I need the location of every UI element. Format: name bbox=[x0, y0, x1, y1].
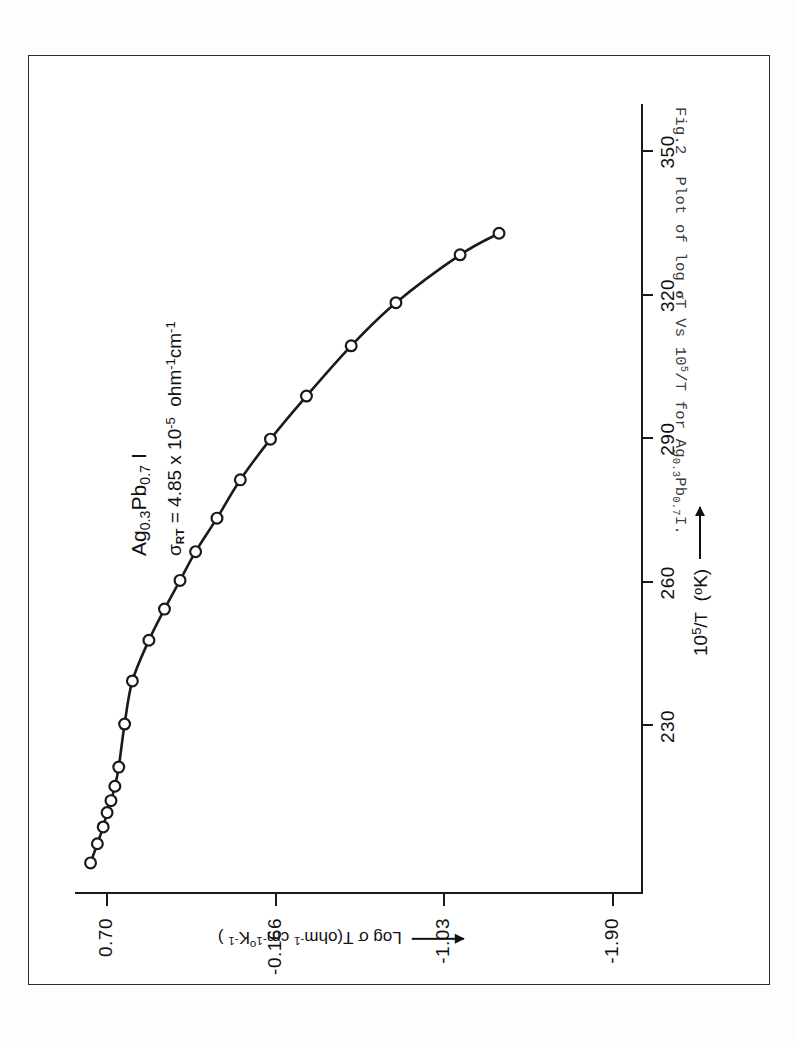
data-point-marker bbox=[190, 546, 201, 557]
data-point-marker bbox=[113, 762, 124, 773]
data-point-marker bbox=[159, 604, 170, 615]
data-point-marker bbox=[144, 635, 155, 646]
data-point-marker bbox=[212, 513, 223, 524]
data-point-marker bbox=[119, 719, 130, 730]
data-point-marker bbox=[301, 391, 312, 402]
data-point-marker bbox=[92, 838, 103, 849]
plot-area: 230260290320350 0.70-0.166-1.03-1.90 Ag0… bbox=[29, 56, 771, 986]
figure-caption-wrap: Fig.2Plot of log σT Vs 105/T for Ag0.3Pb… bbox=[690, 55, 796, 145]
data-point-marker bbox=[391, 297, 402, 308]
plot-inner: 230260290320350 0.70-0.166-1.03-1.90 Ag0… bbox=[29, 56, 771, 986]
sigma-subscript: RT bbox=[173, 529, 186, 545]
data-point-marker bbox=[175, 575, 186, 586]
sample-annotation: Ag0.3Pb0.7 I σRT = 4.85 x 10-5 ohm-1cm-1 bbox=[121, 321, 191, 556]
data-point-marker bbox=[109, 781, 120, 792]
data-point-marker bbox=[455, 249, 466, 260]
annotation-ag-sub: 0.3 bbox=[137, 510, 153, 530]
sigma-value: 4.85 x 10 bbox=[164, 429, 185, 507]
data-point-marker bbox=[98, 822, 109, 833]
x-axis-title: 105/T (oK) bbox=[689, 507, 712, 656]
sigma-units: ohm bbox=[164, 370, 185, 407]
figure-caption-text: Plot of log σT Vs 105/T for Ag0.3Pb0.7I. bbox=[671, 177, 689, 535]
sigma-exponent: -5 bbox=[163, 417, 178, 428]
sigma-symbol: σ bbox=[164, 544, 185, 556]
annotation-ag: Ag bbox=[127, 530, 150, 556]
data-point-marker bbox=[127, 676, 138, 687]
rotated-plot-stage: 230260290320350 0.70-0.166-1.03-1.90 Ag0… bbox=[29, 56, 771, 986]
figure-frame: 230260290320350 0.70-0.166-1.03-1.90 Ag0… bbox=[28, 55, 770, 985]
y-axis-title-text: Log σ T(ohm-1 cm-1oK-1 ) bbox=[218, 927, 402, 951]
y-axis-title: Log σ T(ohm-1 cm-1oK-1 ) bbox=[126, 927, 556, 951]
data-point-marker bbox=[85, 857, 96, 868]
y-axis-arrow-icon bbox=[412, 938, 464, 940]
annotation-compound: Ag0.3Pb0.7 I bbox=[121, 321, 158, 556]
data-point-marker bbox=[106, 795, 117, 806]
figure-number: Fig.2 bbox=[671, 107, 689, 155]
data-point-marker bbox=[265, 434, 276, 445]
data-point-marker bbox=[102, 807, 113, 818]
data-point-marker bbox=[494, 228, 505, 239]
figure-caption: Fig.2Plot of log σT Vs 105/T for Ag0.3Pb… bbox=[670, 55, 690, 985]
annotation-conductivity: σRT = 4.85 x 10-5 ohm-1cm-1 bbox=[158, 321, 191, 556]
data-point-marker bbox=[346, 340, 357, 351]
x-axis-title-text: 105/T (oK) bbox=[689, 569, 712, 656]
annotation-pb: Pb bbox=[127, 485, 150, 511]
data-point-marker bbox=[235, 474, 246, 485]
x-axis-arrow-icon bbox=[699, 507, 701, 559]
annotation-i: I bbox=[127, 453, 150, 459]
annotation-pb-sub: 0.7 bbox=[137, 465, 153, 485]
